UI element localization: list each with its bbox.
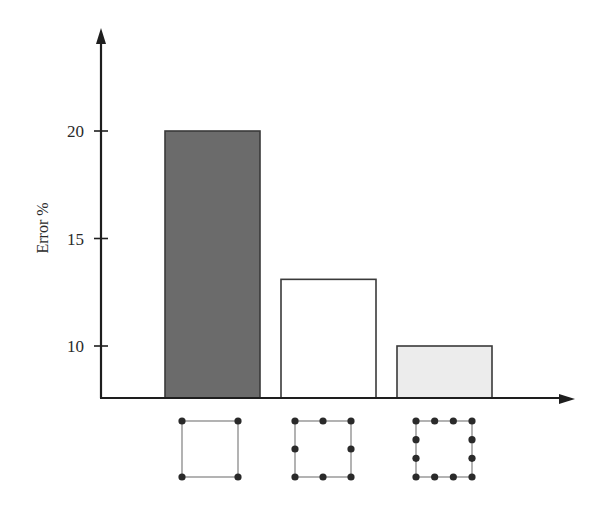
- node-dot-icon: [468, 473, 475, 480]
- node-dot-icon: [291, 473, 298, 480]
- node-dot-icon: [468, 436, 475, 443]
- node-dot-icon: [468, 417, 475, 424]
- node-dot-icon: [450, 473, 457, 480]
- bar-2: [281, 279, 376, 398]
- node-dot-icon: [412, 473, 419, 480]
- node-dot-icon: [412, 455, 419, 462]
- bar-3: [397, 346, 492, 398]
- node-dot-icon: [450, 417, 457, 424]
- node-dot-icon: [347, 473, 354, 480]
- y-axis-arrow-icon: [96, 28, 106, 44]
- node-dot-icon: [178, 473, 185, 480]
- category-icons: [178, 417, 475, 480]
- node-dot-icon: [291, 417, 298, 424]
- y-tick-label: 15: [67, 230, 84, 249]
- node-dot-icon: [234, 417, 241, 424]
- node-dot-icon: [178, 417, 185, 424]
- y-axis: [96, 28, 106, 398]
- y-tick-label: 20: [67, 122, 84, 141]
- node-dot-icon: [412, 436, 419, 443]
- node-dot-icon: [234, 473, 241, 480]
- node-dot-icon: [347, 445, 354, 452]
- bars-group: [165, 131, 492, 398]
- node-dot-icon: [347, 417, 354, 424]
- node-dot-icon: [291, 445, 298, 452]
- element-12-node-icon: [412, 417, 475, 480]
- element-8-node-icon: [291, 417, 354, 480]
- node-dot-icon: [319, 473, 326, 480]
- x-axis-arrow-icon: [559, 394, 575, 404]
- node-dot-icon: [412, 417, 419, 424]
- element-4-node-icon: [178, 417, 241, 480]
- node-dot-icon: [431, 473, 438, 480]
- node-dot-icon: [319, 417, 326, 424]
- y-axis-title: Error %: [34, 202, 51, 253]
- bar-1: [165, 131, 260, 398]
- node-dot-icon: [468, 455, 475, 462]
- y-tick-label: 10: [67, 337, 84, 356]
- node-dot-icon: [431, 417, 438, 424]
- bar-chart: 201510 Error %: [0, 0, 606, 511]
